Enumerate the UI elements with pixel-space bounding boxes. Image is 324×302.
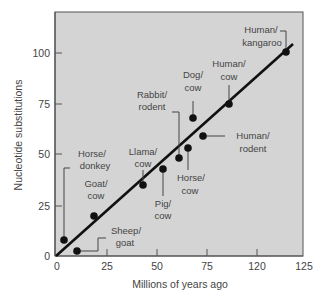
label-rabbit-rodent-2: rodent [139,101,166,112]
label-human-cow-1: Human/ [212,58,246,69]
label-human-rodent-2: rodent [240,143,267,154]
y-axis-title: Nucleotide substitutions [12,80,24,191]
x-tick-label: 50 [151,260,163,272]
label-pig-cow-1: Pig/ [155,198,172,209]
y-tick-label: 50 [38,148,50,160]
scatter-chart: 100 75 50 25 0 0 25 50 75 120 125 Millio… [0,0,324,302]
point-sheep-goat [73,247,81,255]
label-goat-cow-2: cow [88,190,105,201]
point-human-kangaroo [282,48,290,56]
point-llama-cow [139,181,147,189]
label-human-kangaroo-1: Human/ [244,24,278,35]
x-tick-label: 120 [248,260,266,272]
label-goat-cow-1: Goat/ [84,178,108,189]
label-human-cow-2: cow [221,71,238,82]
label-sheep-goat-1: Sheep/ [111,225,141,236]
label-llama-cow-1: Llama/ [129,146,158,157]
label-human-rodent-1: Human/ [236,130,270,141]
label-horse-cow-2: cow [182,185,199,196]
y-tick-label: 25 [38,200,50,212]
y-tick-label: 75 [38,98,50,110]
label-horse-cow-1: Horse/ [177,172,205,183]
label-horse-donkey-2: donkey [80,160,111,171]
point-rabbit-rodent [175,154,183,162]
label-pig-cow-2: cow [155,210,172,221]
point-human-cow [225,100,233,108]
point-pig-cow [159,165,167,173]
x-axis-title: Millions of years ago [132,278,228,290]
label-human-kangaroo-2: kangaroo [242,37,282,48]
y-tick-label: 0 [44,250,50,262]
label-llama-cow-2: cow [135,158,152,169]
label-dog-cow-1: Dog/ [183,69,203,80]
point-human-rodent [199,132,207,140]
point-horse-donkey [60,236,68,244]
x-tick-label: 25 [101,260,113,272]
label-dog-cow-2: cow [185,82,202,93]
point-dog-cow [189,114,197,122]
label-horse-donkey-1: Horse/ [78,148,106,159]
x-tick-label: 0 [54,260,60,272]
y-tick-label: 100 [32,47,50,59]
label-rabbit-rodent-1: Rabbit/ [137,89,167,100]
point-horse-cow [184,144,192,152]
label-sheep-goat-2: goat [116,237,135,248]
x-tick-label: 75 [201,260,213,272]
point-goat-cow [90,212,98,220]
x-tick-label: 125 [295,260,313,272]
